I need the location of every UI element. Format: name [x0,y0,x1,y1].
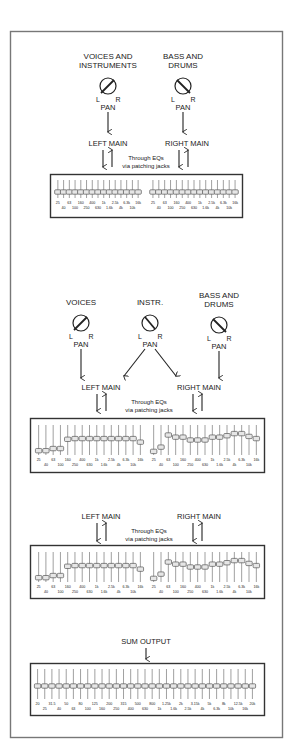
fader-knob[interactable] [113,684,119,688]
fader-knob[interactable] [158,445,164,449]
fader-knob[interactable] [72,436,78,440]
fader-knob[interactable] [242,684,248,688]
fader-knob[interactable] [203,190,209,194]
fader-knob[interactable] [137,440,143,444]
fader-knob[interactable] [72,563,78,567]
fader-knob[interactable] [57,573,63,577]
fader-knob[interactable] [246,434,252,438]
fader-knob[interactable] [130,436,136,440]
fader-knob[interactable] [85,684,91,688]
fader-knob[interactable] [108,436,114,440]
fader-knob[interactable] [194,565,200,569]
fader-knob[interactable] [172,562,178,566]
fader-knob[interactable] [202,438,208,442]
fader-knob[interactable] [156,684,162,688]
fader-knob[interactable] [165,560,171,564]
fader-knob[interactable] [253,563,259,567]
fader-knob[interactable] [197,190,203,194]
fader-knob[interactable] [94,563,100,567]
fader-knob[interactable] [50,573,56,577]
fader-knob[interactable] [43,448,49,452]
fader-knob[interactable] [150,576,156,580]
fader-knob[interactable] [43,575,49,579]
fader-knob[interactable] [115,436,121,440]
fader-knob[interactable] [163,684,169,688]
fader-knob[interactable] [65,564,71,568]
fader-knob[interactable] [194,438,200,442]
fader-knob[interactable] [206,684,212,688]
fader-knob[interactable] [34,684,40,688]
fader-knob[interactable] [106,684,112,688]
fader-knob[interactable] [179,190,185,194]
fader-knob[interactable] [213,684,219,688]
fader-knob[interactable] [70,684,76,688]
fader-knob[interactable] [173,190,179,194]
fader-knob[interactable] [209,435,215,439]
fader-knob[interactable] [216,435,222,439]
fader-knob[interactable] [35,575,41,579]
fader-knob[interactable] [202,565,208,569]
fader-knob[interactable] [101,563,107,567]
fader-knob[interactable] [158,572,164,576]
fader-knob[interactable] [209,562,215,566]
fader-knob[interactable] [142,684,148,688]
fader-knob[interactable] [123,436,129,440]
fader-knob[interactable] [56,684,62,688]
fader-knob[interactable] [120,684,126,688]
fader-knob[interactable] [65,437,71,441]
fader-knob[interactable] [49,684,55,688]
fader-knob[interactable] [185,684,191,688]
fader-knob[interactable] [42,684,48,688]
fader-knob[interactable] [86,436,92,440]
fader-knob[interactable] [214,190,220,194]
fader-knob[interactable] [199,684,205,688]
fader-knob[interactable] [178,684,184,688]
fader-knob[interactable] [187,565,193,569]
fader-knob[interactable] [101,436,107,440]
fader-knob[interactable] [149,684,155,688]
fader-knob[interactable] [167,190,173,194]
fader-knob[interactable] [192,684,198,688]
fader-knob[interactable] [232,190,238,194]
fader-knob[interactable] [185,190,191,194]
fader-knob[interactable] [224,561,230,565]
fader-knob[interactable] [130,563,136,567]
fader-knob[interactable] [249,684,255,688]
fader-knob[interactable] [94,436,100,440]
fader-knob[interactable] [187,438,193,442]
fader-knob[interactable] [86,563,92,567]
fader-knob[interactable] [220,190,226,194]
fader-knob[interactable] [235,684,241,688]
fader-knob[interactable] [150,190,156,194]
fader-knob[interactable] [231,431,237,435]
fader-knob[interactable] [137,567,143,571]
fader-knob[interactable] [191,190,197,194]
fader-knob[interactable] [115,563,121,567]
fader-knob[interactable] [180,562,186,566]
fader-knob[interactable] [79,436,85,440]
fader-knob[interactable] [231,558,237,562]
fader-knob[interactable] [77,684,83,688]
fader-knob[interactable] [165,433,171,437]
fader-knob[interactable] [170,684,176,688]
fader-knob[interactable] [63,684,69,688]
fader-knob[interactable] [92,684,98,688]
fader-knob[interactable] [253,436,259,440]
fader-knob[interactable] [172,435,178,439]
fader-knob[interactable] [224,434,230,438]
fader-knob[interactable] [156,190,162,194]
fader-knob[interactable] [246,561,252,565]
fader-knob[interactable] [161,190,167,194]
fader-knob[interactable] [108,563,114,567]
fader-knob[interactable] [135,684,141,688]
fader-knob[interactable] [135,190,141,194]
fader-knob[interactable] [35,448,41,452]
fader-knob[interactable] [208,190,214,194]
fader-knob[interactable] [238,558,244,562]
fader-knob[interactable] [127,684,133,688]
fader-knob[interactable] [57,446,63,450]
fader-knob[interactable] [99,684,105,688]
fader-knob[interactable] [123,563,129,567]
fader-knob[interactable] [50,446,56,450]
fader-knob[interactable] [238,431,244,435]
